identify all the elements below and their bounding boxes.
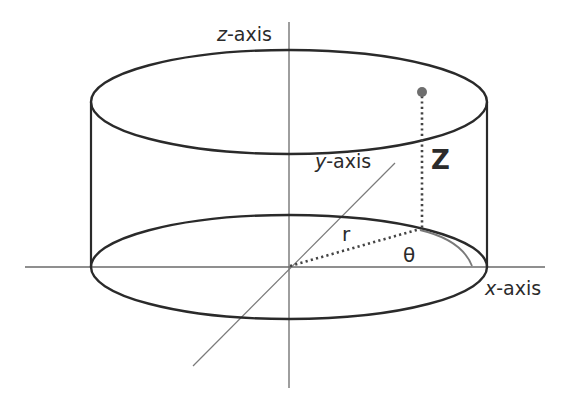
- diagram-canvas: [0, 0, 566, 407]
- x-axis-label: x-axis: [485, 277, 541, 299]
- cylindrical-coordinates-diagram: z-axis y-axis x-axis Z r θ: [0, 0, 566, 407]
- z-height-label: Z: [431, 145, 450, 175]
- z-axis-label: z-axis: [217, 23, 272, 45]
- radius-r-dotted-line: [290, 229, 420, 266]
- y-axis-line: [193, 163, 395, 366]
- r-radius-label: r: [342, 222, 350, 246]
- y-axis-label: y-axis: [315, 150, 371, 172]
- point-marker: [417, 87, 427, 97]
- theta-angle-label: θ: [403, 243, 415, 267]
